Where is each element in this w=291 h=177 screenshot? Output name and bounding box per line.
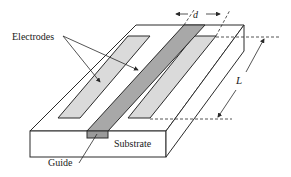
electrodes-label: Electrodes <box>12 31 54 42</box>
guide-label: Guide <box>48 157 73 168</box>
substrate-label: Substrate <box>114 138 152 149</box>
d-label: d <box>193 9 199 20</box>
electrodes-pointer-left <box>63 36 100 82</box>
waveguide-front <box>87 131 108 138</box>
L-label: L <box>235 74 242 86</box>
electro-optic-modulator-diagram: d L Electrodes Substrate Guide <box>0 0 291 177</box>
L-arrow-up <box>246 39 264 72</box>
L-arrow-down <box>218 90 236 117</box>
